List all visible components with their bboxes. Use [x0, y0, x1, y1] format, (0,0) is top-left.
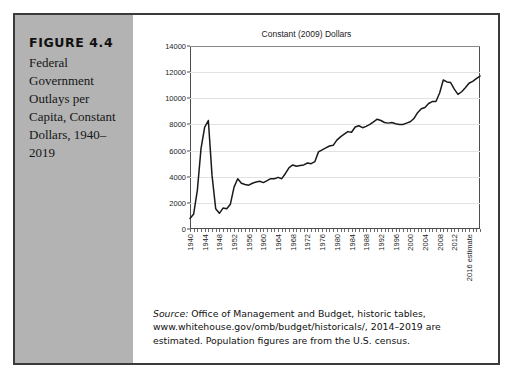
x-axis-tick-mark: [289, 229, 290, 232]
x-axis-tick-mark: [370, 229, 371, 232]
x-axis-tick-mark: [465, 229, 466, 232]
x-axis-tick-mark: [267, 229, 268, 232]
x-axis-tick-mark: [352, 229, 353, 232]
x-axis-tick-mark: [194, 229, 195, 232]
y-axis-tick-label: 14000: [165, 42, 186, 51]
x-axis-tick-mark: [296, 229, 297, 232]
x-axis-tick-label: 1980: [333, 234, 342, 251]
x-axis-tick-mark: [333, 229, 334, 232]
x-axis-tick-mark: [300, 229, 301, 232]
x-axis-tick-mark: [355, 229, 356, 232]
x-axis-tick-mark: [241, 229, 242, 232]
x-axis-tick-mark: [403, 229, 404, 232]
y-axis-tick-label: 6000: [169, 146, 186, 155]
x-axis-tick-label: 2004: [421, 234, 430, 251]
x-axis-tick-mark: [451, 229, 452, 232]
x-axis-tick-mark: [245, 229, 246, 232]
x-axis-tick-label: 2008: [436, 234, 445, 251]
x-axis-tick-mark: [447, 229, 448, 232]
x-axis-tick-mark: [359, 229, 360, 232]
x-axis-tick-mark: [473, 229, 474, 232]
x-axis-tick-label: 2016 estimate: [465, 234, 474, 281]
x-axis-tick-mark: [425, 229, 426, 232]
x-axis-tick-mark: [436, 229, 437, 232]
figure-caption-text: Federal Government Outlays per Capita, C…: [29, 54, 123, 162]
plot-area: 02000400060008000100001200014000 1940194…: [190, 46, 480, 229]
x-axis-tick-mark: [263, 229, 264, 232]
x-axis-tick-mark: [252, 229, 253, 232]
x-axis-tick-mark: [366, 229, 367, 232]
x-axis-tick-label: 1968: [289, 234, 298, 251]
x-axis-tick-mark: [311, 229, 312, 232]
x-axis-tick-label: 1972: [303, 234, 312, 251]
x-axis-tick-mark: [440, 229, 441, 232]
x-axis-tick-mark: [260, 229, 261, 232]
x-axis-tick-mark: [381, 229, 382, 232]
x-axis-tick-label: 1956: [245, 234, 254, 251]
x-axis-tick-mark: [234, 229, 235, 232]
x-axis-tick-mark: [212, 229, 213, 232]
x-axis-tick-mark: [274, 229, 275, 232]
x-axis-tick-label: 1940: [186, 234, 195, 251]
source-note: Source: Office of Management and Budget,…: [153, 307, 480, 347]
x-axis-tick-mark: [315, 229, 316, 232]
x-axis-tick-mark: [190, 229, 191, 232]
x-axis-tick-mark: [399, 229, 400, 232]
x-axis-tick-label: 1944: [201, 234, 210, 251]
x-axis-tick-mark: [205, 229, 206, 232]
x-axis-tick-mark: [208, 229, 209, 232]
y-axis-tick-label: 0: [182, 225, 186, 234]
x-axis-tick-mark: [201, 229, 202, 232]
x-axis-tick-label: 2012: [450, 234, 459, 251]
x-axis-tick-mark: [326, 229, 327, 232]
x-axis-tick-mark: [385, 229, 386, 232]
x-axis-tick-mark: [293, 229, 294, 232]
x-axis-tick-mark: [322, 229, 323, 232]
x-axis-tick-mark: [377, 229, 378, 232]
x-axis-tick-mark: [256, 229, 257, 232]
chart-title: Constant (2009) Dollars: [133, 29, 480, 39]
figure-content-panel: Constant (2009) Dollars 0200040006000800…: [133, 15, 498, 363]
x-axis-tick-mark: [462, 229, 463, 232]
figure-number-label: FIGURE 4.4: [29, 35, 123, 50]
x-axis-tick-mark: [480, 229, 481, 232]
x-axis-tick-mark: [304, 229, 305, 232]
x-axis-tick-mark: [227, 229, 228, 232]
x-axis-tick-mark: [282, 229, 283, 232]
x-axis-tick-mark: [388, 229, 389, 232]
x-axis-tick-mark: [392, 229, 393, 232]
x-axis-tick-label: 1988: [362, 234, 371, 251]
x-axis-tick-label: 1964: [274, 234, 283, 251]
x-axis-tick-mark: [249, 229, 250, 232]
source-text: Office of Management and Budget, histori…: [153, 308, 441, 346]
x-axis-tick-mark: [396, 229, 397, 232]
x-axis-tick-mark: [278, 229, 279, 232]
x-axis-tick-mark: [219, 229, 220, 232]
x-axis-tick-mark: [197, 229, 198, 232]
x-axis-tick-mark: [271, 229, 272, 232]
y-axis-tick-label: 12000: [165, 68, 186, 77]
figure-box: FIGURE 4.4 Federal Government Outlays pe…: [13, 13, 500, 365]
x-axis-tick-mark: [454, 229, 455, 232]
x-axis-tick-mark: [421, 229, 422, 232]
x-axis-tick-label: 1952: [230, 234, 239, 251]
x-axis-tick-mark: [307, 229, 308, 232]
x-axis-tick-mark: [230, 229, 231, 232]
x-axis-tick-mark: [432, 229, 433, 232]
y-axis-tick-label: 2000: [169, 198, 186, 207]
x-axis-tick-mark: [476, 229, 477, 232]
x-axis-tick-label: 1996: [392, 234, 401, 251]
x-axis-tick-mark: [414, 229, 415, 232]
y-axis-tick-label: 8000: [169, 120, 186, 129]
x-axis-tick-mark: [363, 229, 364, 232]
chart-area: Constant (2009) Dollars 0200040006000800…: [133, 15, 498, 293]
x-axis-tick-label: 1960: [259, 234, 268, 251]
x-axis-tick-label: 1948: [215, 234, 224, 251]
x-axis-tick-label: 1992: [377, 234, 386, 251]
y-axis-tick-label: 10000: [165, 94, 186, 103]
x-axis-tick-mark: [374, 229, 375, 232]
x-axis-tick-mark: [443, 229, 444, 232]
source-label: Source:: [153, 308, 188, 319]
x-axis-tick-mark: [458, 229, 459, 232]
x-axis-tick-mark: [348, 229, 349, 232]
